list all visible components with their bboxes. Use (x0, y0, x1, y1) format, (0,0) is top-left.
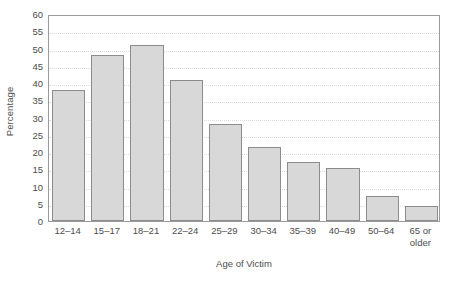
x-tick-label-line: 40–49 (322, 225, 361, 237)
bar (248, 147, 281, 221)
x-tick-label-line: 18–21 (126, 225, 165, 237)
x-axis-title-label: Age of Victim (216, 258, 272, 269)
x-tick-label-line: 65 or (401, 225, 440, 237)
bar-chart-figure: Percentage 051015202530354045505560 12–1… (0, 0, 455, 281)
x-axis-title: Age of Victim (48, 258, 440, 269)
x-tick-label: 65 orolder (401, 225, 440, 248)
x-tick-label: 15–17 (87, 225, 126, 237)
y-tick-label: 40 (32, 79, 43, 89)
x-tick-label: 50–64 (362, 225, 401, 237)
x-tick-label: 22–24 (166, 225, 205, 237)
bar (326, 168, 359, 221)
bar (91, 55, 124, 221)
x-tick-label-line: 15–17 (87, 225, 126, 237)
x-tick-label-line: 12–14 (48, 225, 87, 237)
bar (130, 45, 163, 221)
bar (209, 124, 242, 221)
y-tick-label: 0 (38, 217, 43, 227)
x-tick-label-line: 30–34 (244, 225, 283, 237)
y-tick-label: 45 (32, 62, 43, 72)
x-tick-label: 25–29 (205, 225, 244, 237)
bars-group (49, 16, 439, 221)
bar (366, 196, 399, 221)
x-tick-label: 40–49 (322, 225, 361, 237)
bar (52, 90, 85, 221)
bar (405, 206, 438, 221)
x-tick-label: 18–21 (126, 225, 165, 237)
plot-area (48, 15, 440, 222)
x-tick-label: 30–34 (244, 225, 283, 237)
x-tick-label-line: older (401, 237, 440, 249)
y-tick-label: 35 (32, 96, 43, 106)
x-tick-label-line: 50–64 (362, 225, 401, 237)
y-axis-tick-labels: 051015202530354045505560 (20, 15, 46, 222)
x-tick-label-line: 22–24 (166, 225, 205, 237)
x-tick-label-line: 25–29 (205, 225, 244, 237)
x-tick-label: 12–14 (48, 225, 87, 237)
y-tick-label: 20 (32, 148, 43, 158)
y-tick-label: 50 (32, 45, 43, 55)
y-tick-label: 30 (32, 114, 43, 124)
y-tick-label: 60 (32, 10, 43, 20)
y-tick-label: 15 (32, 165, 43, 175)
x-tick-label-line: 35–39 (283, 225, 322, 237)
y-tick-label: 5 (38, 200, 43, 210)
x-axis-tick-labels: 12–1415–1718–2122–2425–2930–3435–3940–49… (48, 225, 440, 255)
bar (287, 162, 320, 221)
bar (170, 80, 203, 221)
y-axis-title-label: Percentage (5, 86, 16, 136)
y-tick-label: 55 (32, 27, 43, 37)
y-axis-title: Percentage (0, 0, 20, 222)
y-tick-label: 25 (32, 131, 43, 141)
y-tick-label: 10 (32, 183, 43, 193)
x-tick-label: 35–39 (283, 225, 322, 237)
